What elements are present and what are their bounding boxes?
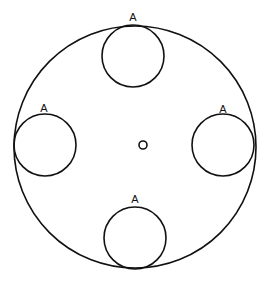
label-left: A bbox=[40, 102, 48, 114]
label-top: A bbox=[129, 11, 137, 23]
inner-circle-left: A bbox=[14, 102, 76, 176]
inner-circle-bottom: A bbox=[104, 193, 166, 269]
label-right: A bbox=[219, 103, 227, 115]
outer-circle bbox=[14, 26, 256, 268]
label-bottom: A bbox=[131, 193, 139, 205]
inner-circle-right: A bbox=[192, 103, 254, 176]
center-hole bbox=[139, 141, 147, 149]
inner-circle-top: A bbox=[102, 11, 164, 87]
circle-diagram: A A A A bbox=[0, 0, 268, 282]
